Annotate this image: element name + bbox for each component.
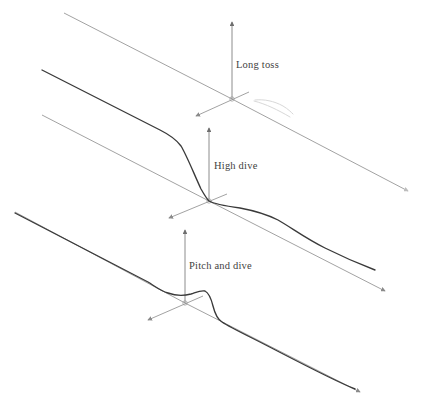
diagram-canvas (0, 0, 421, 407)
label-pitch-and-dive: Pitch and dive (189, 260, 252, 271)
label-high-dive: High dive (214, 160, 258, 171)
trajectory-long-toss (255, 100, 293, 114)
label-long-toss: Long toss (236, 59, 279, 70)
trajectory-high-dive (42, 70, 375, 270)
maneuver-diagram: Long toss High dive Pitch and dive (0, 0, 421, 407)
maneuver-group-high-dive (42, 70, 385, 291)
trajectory-long-toss-return (254, 101, 290, 117)
